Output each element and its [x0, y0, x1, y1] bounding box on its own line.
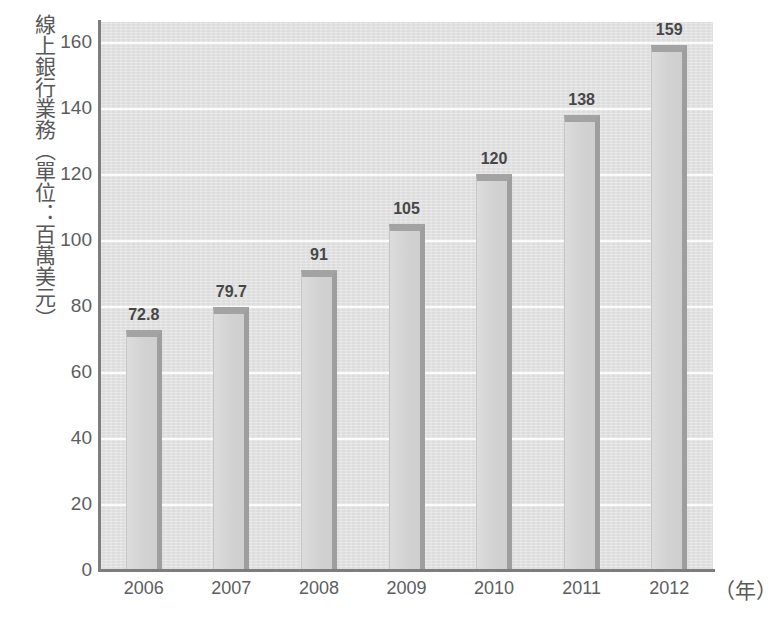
- y-axis-tick-label: 60: [6, 361, 92, 383]
- bar[interactable]: [389, 224, 425, 571]
- y-axis-tick-label: 20: [6, 493, 92, 515]
- bar-chart: 線上銀行業務（單位：百萬美元） 020406080100120140160 72…: [0, 0, 774, 631]
- y-axis-tick-label: 40: [6, 427, 92, 449]
- gridline: [100, 42, 713, 44]
- y-axis-line: [98, 20, 101, 572]
- y-axis-tick-label: 0: [6, 559, 92, 581]
- x-axis-tick-label: 2009: [362, 578, 452, 599]
- y-axis-tick-label: 140: [6, 97, 92, 119]
- bar-value-label: 72.8: [104, 306, 184, 324]
- x-axis-tick-label: 2007: [186, 578, 276, 599]
- bar[interactable]: [651, 45, 687, 570]
- x-axis-tick-label: 2012: [624, 578, 714, 599]
- bar-value-label: 105: [367, 200, 447, 218]
- x-axis-tick-label: 2008: [274, 578, 364, 599]
- bar-value-label: 79.7: [191, 283, 271, 301]
- bar[interactable]: [126, 330, 162, 570]
- y-axis-tick-label: 120: [6, 163, 92, 185]
- bar[interactable]: [564, 115, 600, 570]
- x-axis-tick-label: 2006: [99, 578, 189, 599]
- bar[interactable]: [476, 174, 512, 570]
- x-axis-line: [98, 569, 715, 572]
- y-axis-tick-label: 80: [6, 295, 92, 317]
- gridline: [100, 174, 713, 176]
- bar-value-label: 120: [454, 150, 534, 168]
- x-axis-tick-label: 2010: [449, 578, 539, 599]
- y-axis-tick-labels: 020406080100120140160: [0, 0, 92, 631]
- bar[interactable]: [301, 270, 337, 570]
- bar-value-label: 138: [542, 91, 622, 109]
- x-axis-tick-label: 2011: [537, 578, 627, 599]
- y-axis-tick-label: 160: [6, 31, 92, 53]
- x-axis-unit-label: （年）: [714, 574, 774, 604]
- bar[interactable]: [213, 307, 249, 570]
- y-axis-tick-label: 100: [6, 229, 92, 251]
- bar-value-label: 159: [629, 21, 709, 39]
- bar-value-label: 91: [279, 246, 359, 264]
